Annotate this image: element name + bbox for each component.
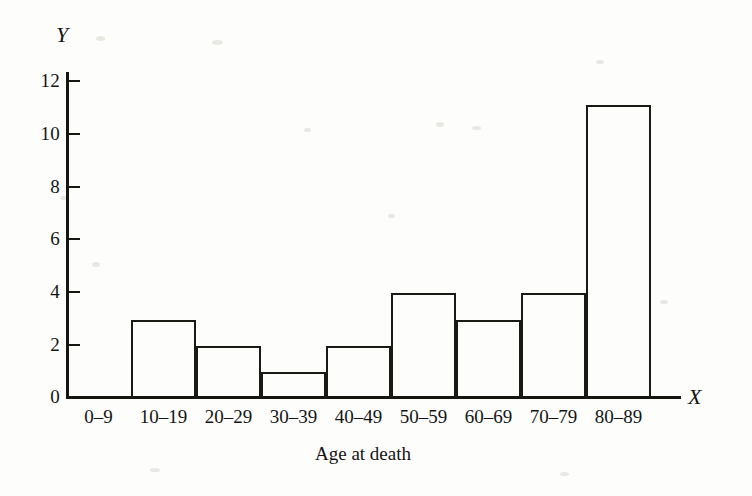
y-tick-2 (69, 344, 80, 346)
histogram-figure: Y X 12 10 8 6 4 2 0 (0, 0, 752, 496)
figure-caption-text: Age at death (315, 443, 411, 464)
y-tick-label-12: 12 (26, 71, 60, 90)
y-tick-6 (69, 238, 80, 240)
y-tick-label-10: 10 (26, 124, 60, 143)
bar-60-69 (456, 320, 521, 399)
bin-label-70-79: 70–79 (521, 406, 586, 428)
y-tick-8 (69, 186, 80, 188)
bin-label-60-69: 60–69 (456, 406, 521, 428)
bin-label-30-39: 30–39 (261, 406, 326, 428)
bar-70-79 (521, 293, 586, 399)
plot-area: Y X 12 10 8 6 4 2 0 (0, 0, 752, 496)
y-tick-label-0: 0 (26, 387, 60, 406)
y-axis-label: Y (56, 24, 68, 46)
bar-10-19 (131, 320, 196, 399)
y-axis-line (66, 72, 69, 399)
bin-label-80-89: 80–89 (586, 406, 651, 428)
bin-label-20-29: 20–29 (196, 406, 261, 428)
bar-80-89 (586, 105, 651, 399)
bar-50-59 (391, 293, 456, 399)
bin-label-0-9: 0–9 (66, 406, 131, 428)
y-tick-label-4: 4 (26, 282, 60, 301)
y-tick-4 (69, 291, 80, 293)
y-tick-12 (69, 80, 80, 82)
bar-30-39 (261, 372, 326, 399)
y-tick-10 (69, 133, 80, 135)
bin-label-10-19: 10–19 (131, 406, 196, 428)
y-tick-label-8: 8 (26, 177, 60, 196)
y-tick-label-6: 6 (26, 229, 60, 248)
bar-40-49 (326, 346, 391, 399)
bin-label-50-59: 50–59 (391, 406, 456, 428)
figure-caption: Age at death (0, 443, 752, 465)
bar-20-29 (196, 346, 261, 399)
x-axis-label: X (688, 386, 701, 408)
y-tick-label-2: 2 (26, 335, 60, 354)
bin-label-40-49: 40–49 (326, 406, 391, 428)
